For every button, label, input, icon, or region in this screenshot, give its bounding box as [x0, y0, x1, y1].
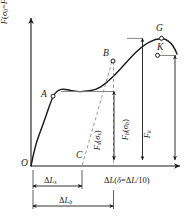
force-label-fs: Fs(σs) — [93, 90, 103, 150]
point-label-a: A — [41, 90, 47, 100]
point-label-c: C — [76, 151, 82, 161]
force-label-fk: Fk — [143, 98, 153, 138]
elongation-label-dls: ΔLs — [44, 176, 56, 186]
point-marker-b — [111, 59, 115, 63]
point-marker-k — [156, 53, 160, 57]
point-marker-a — [51, 94, 55, 98]
elongation-label-dlb: ΔLb — [59, 196, 72, 206]
point-label-o: O — [21, 159, 28, 169]
point-label-b: B — [103, 49, 109, 59]
x-axis-label: ΔL(δ=ΔL/10) — [104, 176, 150, 185]
point-label-g: G — [156, 24, 163, 34]
point-marker-g — [160, 36, 164, 40]
stress-strain-diagram: F(σ0=F/A0) ΔL(δ=ΔL/10) O A B C G K Fs(σs… — [0, 0, 186, 216]
y-axis-label: F(σ0=F/A0) — [0, 0, 10, 24]
force-label-fb: Fb(σb) — [121, 80, 131, 140]
point-label-k: K — [157, 43, 163, 53]
